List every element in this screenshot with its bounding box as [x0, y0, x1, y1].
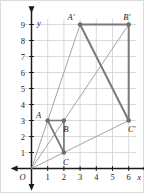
vertex-label: C — [63, 157, 69, 167]
vertex-label: A — [35, 110, 42, 120]
x-tick-label: 6 — [127, 172, 131, 182]
y-tick-label: 8 — [21, 36, 25, 46]
vertex-dot — [126, 22, 131, 27]
vertex-label: B — [63, 124, 68, 134]
x-tick-label: 2 — [62, 172, 66, 182]
vertex-dot — [62, 150, 67, 155]
vertex-label: C' — [128, 124, 136, 134]
vertex-dot — [62, 118, 67, 123]
y-tick-label: 3 — [21, 116, 25, 126]
y-tick-label: 7 — [21, 52, 25, 62]
vertex-dot — [126, 118, 131, 123]
y-tick-label: 6 — [21, 68, 25, 78]
y-tick-label: 5 — [21, 84, 25, 94]
y-tick-label: 1 — [21, 148, 25, 158]
vertex-dot — [78, 22, 83, 27]
x-tick-label: 3 — [78, 172, 82, 182]
vertex-label: A' — [67, 12, 75, 22]
y-tick-label: 9 — [21, 20, 25, 30]
x-axis-label: x — [136, 172, 141, 182]
vertex-label: B' — [123, 12, 130, 22]
x-tick-label: 1 — [46, 172, 50, 182]
x-tick-label: 5 — [110, 172, 114, 182]
x-tick-label: 4 — [94, 172, 99, 182]
origin-label: O — [19, 172, 25, 182]
y-axis-label: y — [36, 18, 41, 28]
vertex-dot — [45, 118, 50, 123]
y-tick-label: 2 — [21, 132, 25, 142]
coordinate-plane-figure: 123456123456789 ABCA'B'C' x y O — [0, 0, 144, 193]
dilation-diagram: 123456123456789 ABCA'B'C' x y O — [0, 0, 144, 193]
